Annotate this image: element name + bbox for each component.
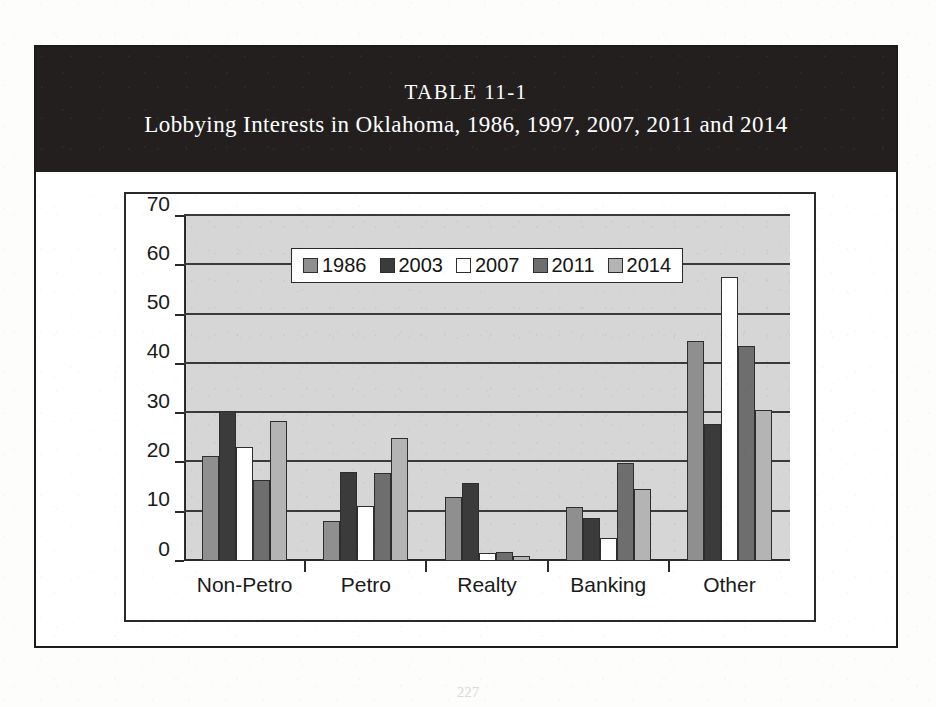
bar-group-other	[669, 216, 790, 561]
title-banner: TABLE 11-1 Lobbying Interests in Oklahom…	[36, 47, 896, 172]
legend-label: 2011	[551, 255, 594, 275]
bar-realty-2011	[496, 552, 513, 561]
y-tick-0	[175, 560, 184, 562]
bar-banking-2003	[583, 518, 600, 561]
table-number-label: TABLE 11-1	[405, 80, 528, 105]
bar-banking-2014	[634, 489, 651, 561]
chart-legend: 19862003200720112014	[291, 248, 683, 283]
x-axis-label-banking: Banking	[548, 573, 669, 597]
y-axis-tick-label: 50	[147, 290, 170, 314]
bar-banking-1986	[566, 507, 583, 561]
bar-other-1986	[687, 341, 704, 561]
x-tick	[668, 561, 670, 572]
bar-petro-2007	[357, 506, 374, 561]
y-tick-40	[175, 363, 184, 365]
bar-non-petro-2003	[219, 411, 236, 561]
bar-group-non-petro	[184, 216, 305, 561]
y-axis-tick-label: 30	[147, 389, 170, 413]
bar-banking-2007	[600, 538, 617, 561]
legend-label: 1986	[322, 255, 367, 275]
bar-other-2011	[738, 346, 755, 561]
y-tick-10	[175, 511, 184, 513]
legend-item-2003[interactable]: 2003	[379, 255, 443, 275]
legend-item-2007[interactable]: 2007	[456, 255, 520, 275]
x-tick	[304, 561, 306, 572]
bar-petro-2014	[391, 438, 408, 561]
x-axis-label-other: Other	[669, 573, 790, 597]
y-tick-20	[175, 461, 184, 463]
y-axis-tick-label: 10	[147, 487, 170, 511]
legend-label: 2003	[398, 255, 443, 275]
y-axis-tick-label: 60	[147, 241, 170, 265]
legend-swatch-icon-2007	[456, 258, 471, 273]
legend-swatch-icon-2003	[379, 258, 394, 273]
legend-swatch-icon-2014	[608, 258, 623, 273]
bar-realty-2003	[462, 483, 479, 561]
bar-non-petro-1986	[202, 456, 219, 562]
y-axis-tick-label: 70	[147, 192, 170, 216]
chart-frame: 010203040506070 19862003200720112014 Non…	[124, 192, 816, 622]
x-axis-label-realty: Realty	[426, 573, 547, 597]
bar-non-petro-2014	[270, 421, 287, 561]
page-number: 227	[0, 684, 936, 701]
bar-petro-1986	[323, 521, 340, 561]
bar-realty-2014	[513, 556, 530, 561]
legend-item-2014[interactable]: 2014	[608, 255, 672, 275]
x-axis-labels: Non-PetroPetroRealtyBankingOther	[184, 573, 790, 597]
bar-non-petro-2007	[236, 447, 253, 561]
legend-label: 2007	[475, 255, 520, 275]
figure-title: Lobbying Interests in Oklahoma, 1986, 19…	[144, 111, 787, 140]
figure-container: TABLE 11-1 Lobbying Interests in Oklahom…	[34, 45, 898, 648]
y-tick-70	[175, 215, 184, 217]
legend-label: 2014	[627, 255, 672, 275]
legend-item-1986[interactable]: 1986	[303, 255, 367, 275]
x-axis-label-petro: Petro	[305, 573, 426, 597]
bar-other-2003	[704, 424, 721, 561]
y-tick-60	[175, 264, 184, 266]
y-tick-30	[175, 412, 184, 414]
legend-item-2011[interactable]: 2011	[532, 255, 594, 275]
bar-banking-2011	[617, 463, 634, 561]
bar-petro-2003	[340, 472, 357, 561]
y-axis-tick-label: 40	[147, 339, 170, 363]
y-tick-50	[175, 314, 184, 316]
bar-realty-1986	[445, 497, 462, 561]
plot-wrapper: 010203040506070 19862003200720112014	[184, 216, 790, 561]
legend-swatch-icon-2011	[532, 258, 547, 273]
x-axis-label-non-petro: Non-Petro	[184, 573, 305, 597]
bar-other-2014	[755, 410, 772, 561]
bar-other-2007	[721, 277, 738, 561]
bar-petro-2011	[374, 473, 391, 561]
y-axis-tick-label: 0	[158, 537, 170, 561]
x-tick	[547, 561, 549, 572]
bar-non-petro-2011	[253, 480, 270, 561]
bar-realty-2007	[479, 553, 496, 561]
legend-swatch-icon-1986	[303, 258, 318, 273]
y-axis-tick-label: 20	[147, 438, 170, 462]
x-tick	[425, 561, 427, 572]
